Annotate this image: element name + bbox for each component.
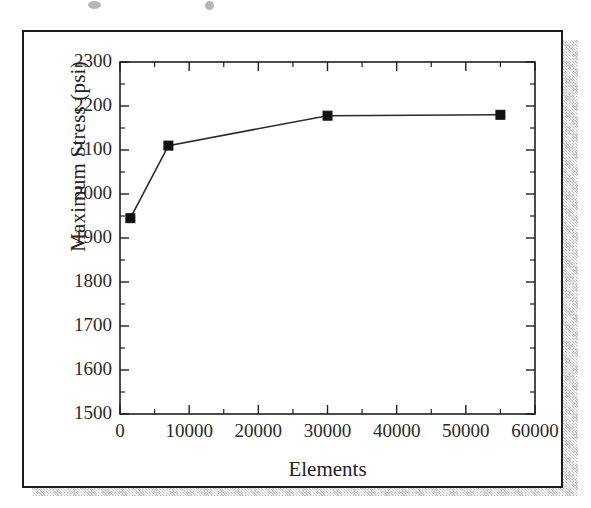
- scan-artifact-mark: [205, 1, 214, 10]
- scan-artifact-mark: [88, 1, 101, 9]
- data-point-marker: [323, 111, 332, 120]
- data-point-marker: [164, 141, 173, 150]
- plot-canvas: [24, 32, 561, 486]
- chart-container: Maximum Stress (psi) Elements 1500160017…: [24, 32, 561, 486]
- scan-artifact-top-text: [0, 0, 591, 14]
- data-point-marker: [496, 110, 505, 119]
- series-markers: [126, 110, 505, 222]
- series-line: [130, 115, 500, 218]
- data-point-marker: [126, 214, 135, 223]
- figure-card: Maximum Stress (psi) Elements 1500160017…: [22, 30, 563, 488]
